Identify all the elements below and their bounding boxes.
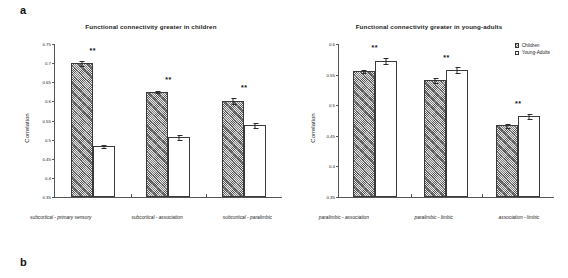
y-axis-tick xyxy=(52,140,55,141)
bar-children[interactable] xyxy=(353,71,375,197)
y-axis-tick xyxy=(336,44,339,45)
y-axis-tick xyxy=(52,178,55,179)
error-bar xyxy=(179,135,180,141)
error-bar xyxy=(103,145,104,149)
plot-wrapper: Correlation ****** 0.750.70.650.60.550.5… xyxy=(10,30,292,226)
y-axis-tick xyxy=(52,101,55,102)
y-axis-tick xyxy=(52,44,55,45)
x-axis-separator xyxy=(131,194,132,197)
plot-wrapper: Correlation ****** 0.60.550.50.450.40.35… xyxy=(296,30,562,226)
bar-young-adults[interactable] xyxy=(446,70,468,197)
y-axis-title: Correlation xyxy=(24,113,30,142)
error-bar xyxy=(81,61,82,67)
significance-marker: ** xyxy=(165,76,171,83)
y-axis-tick-label: 0.65 xyxy=(42,80,51,85)
bar-group: ** xyxy=(496,44,540,197)
error-bar xyxy=(457,67,458,74)
significance-marker: ** xyxy=(515,100,521,107)
chart-young-adults-greater: Functional connectivity greater in young… xyxy=(296,18,562,243)
y-axis-tick xyxy=(52,82,55,83)
error-bar xyxy=(233,98,234,105)
y-axis-tick xyxy=(52,159,55,160)
chart-children-greater: Functional connectivity greater in child… xyxy=(10,18,292,243)
error-bar xyxy=(157,91,158,94)
x-axis-category-label: subcortical - association xyxy=(132,215,183,220)
y-axis-tick xyxy=(336,166,339,167)
bar-group: ** xyxy=(146,44,190,197)
y-axis-tick-label: 0.35 xyxy=(42,195,51,200)
bar-group: ** xyxy=(222,44,266,197)
plot-area: ****** 0.60.550.50.450.40.35 xyxy=(338,44,554,198)
y-axis-tick-label: 0.45 xyxy=(326,133,335,138)
bar-young-adults[interactable] xyxy=(93,146,115,197)
bar-children[interactable] xyxy=(146,92,168,197)
significance-marker: ** xyxy=(90,47,96,54)
x-axis-separator xyxy=(411,194,412,197)
y-axis-tick xyxy=(336,197,339,198)
x-axis-separator xyxy=(206,194,207,197)
y-axis-title: Correlation xyxy=(310,113,316,142)
bar-group: ** xyxy=(424,44,468,197)
panel-label-b: b xyxy=(20,256,27,268)
y-axis-tick-label: 0.6 xyxy=(329,42,335,47)
category-labels: subcortical - primary sensorysubcortical… xyxy=(10,215,292,220)
y-axis-tick xyxy=(52,63,55,64)
chart-title: Functional connectivity greater in young… xyxy=(296,18,562,30)
y-axis-tick-label: 0.75 xyxy=(42,42,51,47)
x-axis-category-label: association - limbic xyxy=(499,215,540,220)
error-bar xyxy=(363,70,364,75)
bar-children[interactable] xyxy=(71,63,93,197)
bar-young-adults[interactable] xyxy=(375,61,397,197)
x-axis-category-label: paralimbic - association xyxy=(319,215,369,220)
y-axis-tick xyxy=(52,121,55,122)
y-axis-tick-label: 0.6 xyxy=(45,99,51,104)
plot-area: ****** 0.750.70.650.60.550.50.450.40.35 xyxy=(54,44,282,198)
y-axis-tick-label: 0.4 xyxy=(329,164,335,169)
error-bar xyxy=(529,114,530,120)
y-axis-tick-label: 0.55 xyxy=(326,72,335,77)
bar-young-adults[interactable] xyxy=(168,137,190,197)
x-axis-separator xyxy=(482,194,483,197)
bar-young-adults[interactable] xyxy=(518,116,540,197)
bar-children[interactable] xyxy=(424,80,446,198)
x-axis-category-label: subcortical - primary sensory xyxy=(30,215,91,220)
chart-title: Functional connectivity greater in child… xyxy=(10,18,292,30)
y-axis-tick xyxy=(336,105,339,106)
error-bar xyxy=(435,78,436,84)
y-axis-tick-label: 0.4 xyxy=(45,175,51,180)
bar-group: ** xyxy=(71,44,115,197)
error-bar xyxy=(385,58,386,65)
y-axis-tick-label: 0.45 xyxy=(42,156,51,161)
significance-marker: ** xyxy=(443,54,449,61)
x-axis-category-label: paralimbic - limbic xyxy=(415,215,453,220)
bar-young-adults[interactable] xyxy=(244,125,266,197)
error-bar xyxy=(255,123,256,129)
error-bar xyxy=(507,124,508,129)
significance-marker: ** xyxy=(241,84,247,91)
y-axis-tick xyxy=(52,197,55,198)
bar-children[interactable] xyxy=(222,101,244,197)
significance-marker: ** xyxy=(372,44,378,51)
bar-children[interactable] xyxy=(496,125,518,197)
y-axis-tick-label: 0.55 xyxy=(42,118,51,123)
y-axis-tick xyxy=(336,136,339,137)
panel-label-a: a xyxy=(20,4,26,16)
y-axis-tick-label: 0.7 xyxy=(45,61,51,66)
bar-group: ** xyxy=(353,44,397,197)
category-labels: paralimbic - associationparalimbic - lim… xyxy=(296,215,562,220)
bar-groups: ****** xyxy=(55,44,282,197)
x-axis-category-label: subcortical - paralimbic xyxy=(223,215,272,220)
bar-groups: ****** xyxy=(339,44,554,197)
y-axis-tick-label: 0.35 xyxy=(326,195,335,200)
y-axis-tick-label: 0.5 xyxy=(329,103,335,108)
y-axis-tick-label: 0.5 xyxy=(45,137,51,142)
y-axis-tick xyxy=(336,75,339,76)
